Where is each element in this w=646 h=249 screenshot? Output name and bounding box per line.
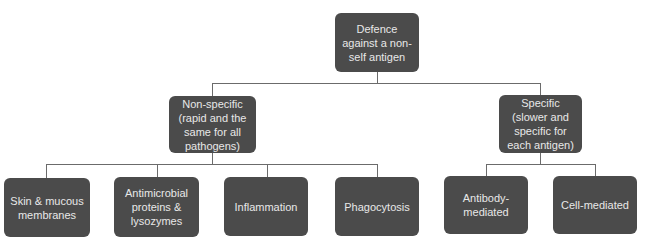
connector-specific-horizontal [486, 164, 596, 165]
node-non-specific-label: Non-specific (rapid and the same for all… [173, 97, 252, 153]
node-root-label: Defence against a non-self antigen [339, 22, 415, 64]
node-specific-label: Specific (slower and specific for each a… [503, 96, 578, 152]
node-skin-mucous-membranes: Skin & mucous membranes [4, 178, 90, 237]
connector-nonspecific-up [212, 83, 213, 96]
connector-skin-up [46, 164, 47, 178]
node-cell-label: Cell-mediated [561, 198, 629, 212]
connector-specific-down [540, 153, 541, 164]
connector-specific-up [540, 83, 541, 95]
node-phagocytosis-label: Phagocytosis [344, 200, 409, 214]
connector-phagocytosis-up [377, 164, 378, 177]
node-cell-mediated: Cell-mediated [553, 176, 637, 234]
node-inflammation: Inflammation [224, 177, 308, 236]
connector-antimicrobial-up [157, 164, 158, 177]
node-antimicrobial-label: Antimicrobial proteins & lysozymes [118, 186, 195, 228]
node-antimicrobial-proteins: Antimicrobial proteins & lysozymes [114, 177, 199, 237]
connector-inflammation-up [267, 164, 268, 177]
connector-cell-up [595, 164, 596, 176]
connector-antibody-up [486, 164, 487, 176]
node-skin-label: Skin & mucous membranes [8, 194, 86, 222]
node-antibody-label: Antibody-mediated [448, 191, 524, 219]
node-phagocytosis: Phagocytosis [335, 177, 419, 236]
node-specific: Specific (slower and specific for each a… [499, 95, 582, 153]
node-non-specific: Non-specific (rapid and the same for all… [169, 96, 256, 153]
connector-level1-horizontal [212, 83, 541, 84]
node-antibody-mediated: Antibody-mediated [444, 176, 528, 234]
connector-nonspecific-horizontal [46, 164, 378, 165]
node-root-defence: Defence against a non-self antigen [335, 13, 419, 72]
node-inflammation-label: Inflammation [235, 200, 298, 214]
